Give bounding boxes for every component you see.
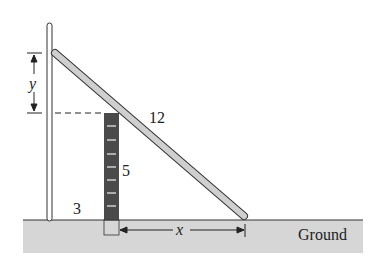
label-ladder-length: 12 bbox=[149, 109, 165, 126]
ladder-diagram: y x 12 5 3 Ground bbox=[0, 0, 377, 260]
label-ground: Ground bbox=[298, 226, 347, 243]
label-x: x bbox=[175, 221, 183, 238]
label-box-height: 5 bbox=[122, 162, 130, 179]
label-y: y bbox=[27, 75, 37, 93]
label-box-distance: 3 bbox=[73, 200, 81, 217]
